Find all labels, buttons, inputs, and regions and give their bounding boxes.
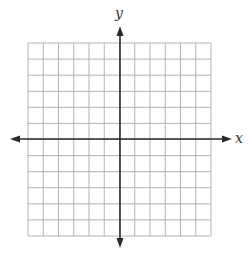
coordinate-plane: y x	[0, 0, 249, 253]
x-axis-left-arrow-icon	[10, 136, 20, 143]
y-axis-down-arrow-icon	[117, 238, 124, 248]
x-axis-right-arrow-icon	[222, 136, 232, 143]
x-axis-label: x	[235, 130, 243, 146]
y-axis-up-arrow-icon	[117, 26, 124, 36]
y-axis-label: y	[114, 5, 124, 21]
